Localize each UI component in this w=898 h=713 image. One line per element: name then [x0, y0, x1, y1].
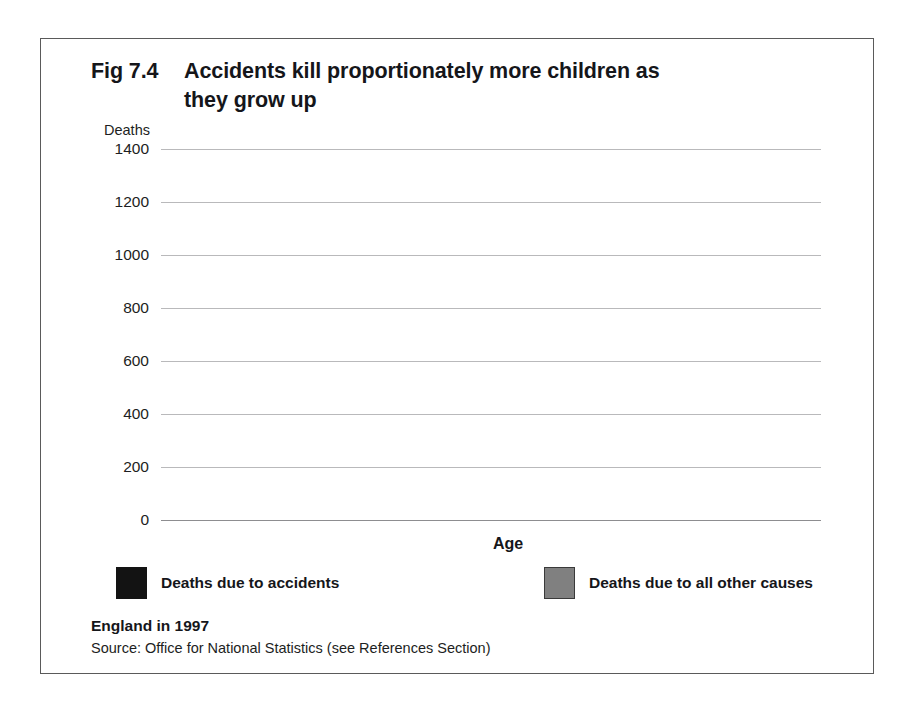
chart-legend: Deaths due to accidents Deaths due to al…	[41, 567, 875, 613]
figure-frame: Fig 7.4Accidents kill proportionately mo…	[40, 38, 874, 674]
figure-footnote: England in 1997 Source: Office for Natio…	[91, 617, 831, 656]
legend-item-accidents[interactable]: Deaths due to accidents	[116, 567, 339, 599]
y-tick-label: 400	[123, 405, 149, 423]
y-tick-label: 0	[140, 511, 149, 529]
y-tick-label: 600	[123, 352, 149, 370]
y-tick-label: 1000	[115, 246, 149, 264]
plot-area: Deaths 1400 1200 1000 800 600	[41, 39, 875, 675]
footnote-source: Source: Office for National Statistics (…	[91, 640, 831, 656]
y-tick-label: 1200	[115, 193, 149, 211]
legend-swatch-accidents-icon	[116, 567, 147, 599]
footnote-region-year: England in 1997	[91, 617, 831, 635]
legend-label-accidents: Deaths due to accidents	[161, 574, 339, 592]
x-axis-title: Age	[448, 535, 568, 553]
legend-label-other-causes: Deaths due to all other causes	[589, 574, 813, 592]
y-axis-title: Deaths	[104, 122, 150, 138]
figure-page: Fig 7.4Accidents kill proportionately mo…	[0, 0, 898, 713]
y-tick-label: 1400	[115, 140, 149, 158]
legend-swatch-other-causes-icon	[544, 567, 575, 599]
y-tick-label: 200	[123, 458, 149, 476]
y-tick-label: 800	[123, 299, 149, 317]
legend-item-other-causes[interactable]: Deaths due to all other causes	[544, 567, 813, 599]
